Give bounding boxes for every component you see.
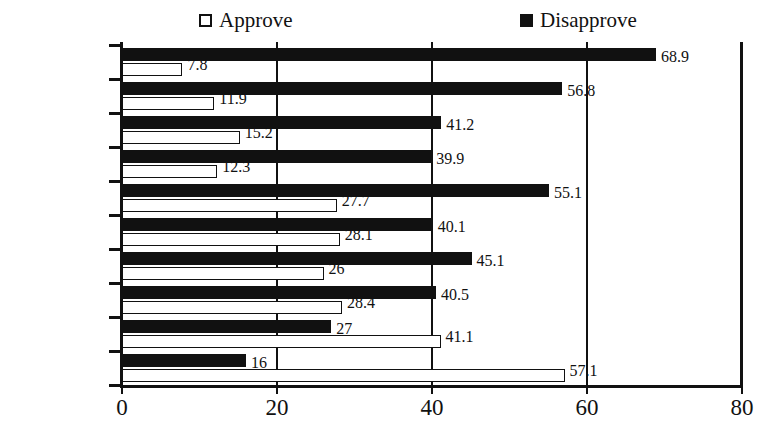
- y-axis-tick: [109, 384, 122, 387]
- bar-approve: [122, 233, 340, 246]
- bar-value-label: 41.1: [446, 329, 474, 345]
- bar-disapprove: [122, 116, 441, 129]
- bar-value-label: 12.3: [222, 159, 250, 175]
- bar-disapprove: [122, 252, 472, 265]
- bar-value-label: 40.1: [438, 219, 466, 235]
- plot-area: 68.97.856.811.941.215.239.912.355.127.74…: [122, 45, 742, 385]
- x-axis-tick: [741, 385, 743, 394]
- bar-value-label: 28.4: [347, 295, 375, 311]
- legend-entry-approve: Approve: [199, 10, 292, 31]
- bar-approve: [122, 267, 324, 280]
- bar-approve: [122, 369, 565, 382]
- bar-value-label: 55.1: [554, 185, 582, 201]
- legend-swatch-approve-icon: [199, 14, 212, 27]
- y-axis-tick: [109, 180, 122, 183]
- bar-approve: [122, 335, 441, 348]
- x-axis-tick: [431, 385, 433, 394]
- chart-legend: Approve Disapprove: [0, 6, 760, 40]
- y-axis-tick: [109, 146, 122, 149]
- x-axis-tick-label: 40: [421, 396, 444, 419]
- bar-value-label: 27.7: [342, 193, 370, 209]
- x-axis-tick-label: 20: [266, 396, 289, 419]
- x-axis-tick: [276, 385, 278, 394]
- bar-approve: [122, 165, 217, 178]
- bar-approve: [122, 199, 337, 212]
- y-axis-tick: [109, 78, 122, 81]
- bar-disapprove: [122, 218, 433, 231]
- bar-value-label: 28.1: [345, 227, 373, 243]
- x-axis-tick-label: 0: [116, 396, 128, 419]
- bar-approve: [122, 63, 182, 76]
- bar-disapprove: [122, 320, 331, 333]
- bar-value-label: 41.2: [446, 117, 474, 133]
- bar-value-label: 56.8: [567, 83, 595, 99]
- bar-disapprove: [122, 82, 562, 95]
- y-axis-tick: [109, 316, 122, 319]
- y-axis-tick: [109, 44, 122, 47]
- bar-value-label: 57.1: [570, 363, 598, 379]
- bar-disapprove: [122, 286, 436, 299]
- legend-entry-disapprove: Disapprove: [520, 10, 637, 31]
- legend-label-disapprove: Disapprove: [540, 10, 637, 31]
- bar-value-label: 26: [329, 261, 345, 277]
- x-axis-tick-label: 60: [576, 396, 599, 419]
- bar-disapprove: [122, 150, 431, 163]
- bar-value-label: 40.5: [441, 287, 469, 303]
- y-axis-tick: [109, 112, 122, 115]
- bar-value-label: 39.9: [436, 151, 464, 167]
- bar-approve: [122, 97, 214, 110]
- bar-value-label: 45.1: [477, 253, 505, 269]
- bar-chart: Approve Disapprove 68.97.856.811.941.215…: [0, 0, 760, 445]
- y-axis-tick: [109, 350, 122, 353]
- x-axis-tick-label: 80: [731, 396, 754, 419]
- x-axis-tick: [586, 385, 588, 394]
- y-axis-tick: [109, 214, 122, 217]
- y-axis-tick: [109, 282, 122, 285]
- bar-value-label: 68.9: [661, 49, 689, 65]
- plot-right-border: [740, 42, 743, 388]
- bar-value-label: 7.8: [187, 57, 207, 73]
- y-axis-tick: [109, 248, 122, 251]
- bar-disapprove: [122, 184, 549, 197]
- legend-swatch-disapprove-icon: [520, 14, 533, 27]
- bar-value-label: 11.9: [219, 91, 246, 107]
- bar-disapprove: [122, 354, 246, 367]
- legend-label-approve: Approve: [219, 10, 292, 31]
- bar-approve: [122, 131, 240, 144]
- bar-value-label: 15.2: [245, 125, 273, 141]
- bar-approve: [122, 301, 342, 314]
